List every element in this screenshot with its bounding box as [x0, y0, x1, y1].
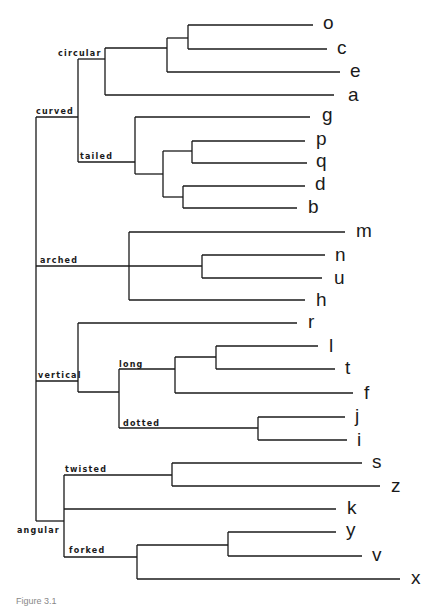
- leaf-b: b: [308, 197, 319, 216]
- leaf-y: y: [346, 520, 356, 539]
- leaf-h: h: [316, 290, 327, 309]
- leaf-z: z: [391, 476, 401, 495]
- group-label-forked: forked: [69, 546, 105, 555]
- leaf-j: j: [355, 406, 359, 425]
- leaf-o: o: [323, 13, 334, 32]
- leaf-s: s: [372, 452, 382, 471]
- leaf-f: f: [364, 383, 369, 402]
- leaf-l: l: [329, 336, 333, 355]
- leaf-u: u: [334, 268, 345, 287]
- group-label-twisted: twisted: [65, 465, 107, 474]
- leaf-c: c: [337, 38, 347, 57]
- leaf-g: g: [322, 105, 333, 124]
- leaf-e: e: [350, 61, 361, 80]
- leaf-i: i: [357, 430, 361, 449]
- leaf-n: n: [335, 245, 346, 264]
- leaf-k: k: [347, 498, 357, 517]
- leaf-t: t: [345, 358, 350, 377]
- group-label-vertical: vertical: [38, 371, 82, 380]
- group-label-angular: angular: [17, 526, 60, 535]
- leaf-q: q: [316, 151, 327, 170]
- group-label-long: long: [119, 360, 143, 369]
- leaf-r: r: [308, 312, 314, 331]
- leaf-d: d: [315, 174, 326, 193]
- leaf-a: a: [348, 85, 359, 104]
- leaf-m: m: [356, 221, 372, 240]
- figure-caption: Figure 3.1: [16, 596, 57, 606]
- leaf-p: p: [316, 129, 327, 148]
- leaf-x: x: [411, 568, 421, 587]
- group-label-curved: curved: [36, 107, 74, 116]
- group-label-tailed: tailed: [80, 152, 113, 161]
- group-label-circular: circular: [58, 49, 102, 58]
- leaf-v: v: [372, 545, 382, 564]
- group-label-dotted: dotted: [123, 419, 160, 428]
- group-label-arched: arched: [40, 256, 78, 265]
